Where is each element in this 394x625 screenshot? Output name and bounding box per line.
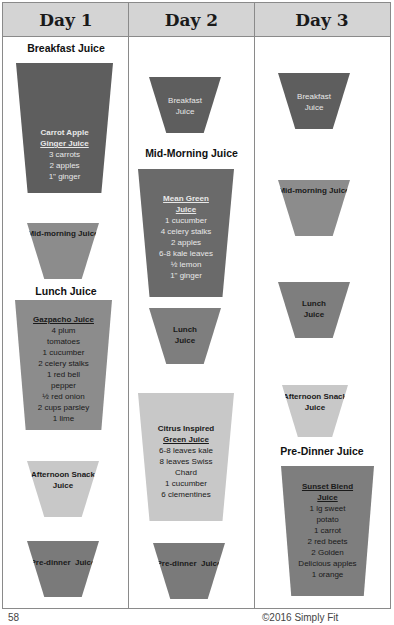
day2-midmorning-cup: Mean Green Juice 1 cucumber 4 celery sta…	[138, 169, 234, 297]
ingredient: 2 cups parsley	[38, 402, 90, 413]
ingredient: tomatoes	[47, 336, 80, 347]
column-header-day1: Day 1	[3, 3, 129, 37]
cup-label: Juice	[176, 106, 195, 117]
day1-lunch-cup: Gazpacho Juice 4 plum tomatoes 1 cucumbe…	[15, 300, 112, 430]
ingredient: 1 red bell	[47, 369, 80, 380]
day2-afternoon-cup: Citrus Inspired Green Juice 6-8 leaves k…	[138, 393, 234, 521]
ingredient: 2 apples	[49, 160, 79, 171]
ingredient: Delicious apples	[298, 558, 356, 569]
label-predinner-juice: Pre-Dinner Juice	[254, 445, 390, 457]
ingredient: potato	[316, 514, 338, 525]
column-divider	[254, 3, 255, 608]
recipe-title: Citrus Inspired	[158, 423, 214, 434]
ingredient: 1 lg sweet	[309, 503, 345, 514]
ingredient: 2 Golden	[311, 547, 343, 558]
day3-predinner-cup: Sunset Blend Juice 1 lg sweet potato 1 c…	[281, 466, 374, 596]
day3-breakfast-cup: Breakfast Juice	[278, 73, 350, 129]
ingredient: 8 leaves Swiss	[160, 456, 213, 467]
cup-label: Lunch	[173, 324, 197, 335]
ingredient: 2 celery stalks	[38, 358, 89, 369]
ingredient: 4 plum	[51, 325, 75, 336]
recipe-title: Carrot Apple	[40, 127, 88, 138]
cup-label: Juice	[305, 402, 325, 413]
ingredient: 1" ginger	[49, 171, 81, 182]
ingredient: 1 cucumber	[43, 347, 85, 358]
day1-breakfast-cup: Carrot Apple Ginger Juice 3 carrots 2 ap…	[16, 63, 113, 193]
ingredient: 1 carrot	[314, 525, 341, 536]
day1-predinner-cup: Pre-dinner Juice	[27, 541, 99, 597]
label-lunch-juice: Lunch Juice	[3, 285, 129, 297]
ingredient: ½ red onion	[42, 391, 84, 402]
day1-midmorning-cup: Mid-morning Juice	[27, 223, 99, 279]
day3-lunch-cup: Lunch Juice	[278, 282, 350, 338]
recipe-title: Mean Green	[163, 193, 209, 204]
ingredient: 2 red beets	[307, 536, 347, 547]
ingredient: 1 orange	[312, 569, 344, 580]
day2-predinner-cup: Pre-dinner Juice	[153, 543, 225, 599]
cup-label: Afternoon Snack	[31, 469, 95, 480]
cup-label: Lunch	[302, 298, 326, 309]
recipe-title: Sunset Blend	[302, 481, 353, 492]
ingredient: 6 clementines	[161, 489, 210, 500]
cup-label: Breakfast	[168, 95, 202, 106]
ingredient: 1 lime	[53, 413, 74, 424]
cup-label: Juice	[304, 309, 324, 320]
page-number: 58	[8, 612, 19, 623]
cup-label: Juice	[53, 480, 73, 491]
cup-label: Afternoon Snack	[283, 391, 347, 402]
cup-label: Breakfast	[297, 91, 331, 102]
column-header-day2: Day 2	[129, 3, 254, 37]
label-midmorning-juice: Mid-Morning Juice	[129, 147, 254, 159]
ingredient: 1 cucumber	[165, 215, 207, 226]
ingredient: 2 apples	[171, 237, 201, 248]
cup-label: Juice	[175, 335, 195, 346]
recipe-title: Ginger Juice	[40, 138, 88, 149]
juice-plan-table: Day 1 Day 2 Day 3 Breakfast Juice Carrot…	[2, 2, 391, 609]
day2-lunch-cup: Lunch Juice	[149, 308, 221, 364]
ingredient: ½ lemon	[171, 259, 202, 270]
ingredient: 6-8 leaves kale	[159, 445, 213, 456]
ingredient: 1 cucumber	[165, 478, 207, 489]
column-header-day3: Day 3	[254, 3, 390, 37]
recipe-title: Juice	[176, 204, 196, 215]
day3-midmorning-cup: Mid-morning Juice	[278, 180, 350, 236]
ingredient: pepper	[51, 380, 76, 391]
day2-breakfast-cup: Breakfast Juice	[149, 77, 221, 133]
day1-afternoon-cup: Afternoon Snack Juice	[27, 461, 99, 517]
day3-afternoon-cup: Afternoon Snack Juice	[282, 385, 348, 437]
cup-label: Juice	[305, 102, 324, 113]
recipe-title: Green Juice	[163, 434, 209, 445]
label-breakfast-juice: Breakfast Juice	[3, 42, 129, 54]
ingredient: 6-8 kale leaves	[159, 248, 213, 259]
ingredient: 4 celery stalks	[161, 226, 212, 237]
copyright-text: ©2016 Simply Fit	[262, 612, 338, 623]
column-divider	[128, 3, 129, 608]
ingredient: 3 carrots	[49, 149, 80, 160]
cup-label: Pre-dinner Juice	[157, 558, 222, 569]
ingredient: 1" ginger	[170, 270, 202, 281]
cup-label: Mid-morning Juice	[278, 185, 349, 196]
ingredient: Chard	[175, 467, 197, 478]
recipe-title: Juice	[317, 492, 337, 503]
recipe-title: Gazpacho Juice	[33, 314, 94, 325]
cup-label: Mid-morning Juice	[27, 228, 98, 239]
cup-label: Pre-dinner Juice	[31, 557, 96, 568]
